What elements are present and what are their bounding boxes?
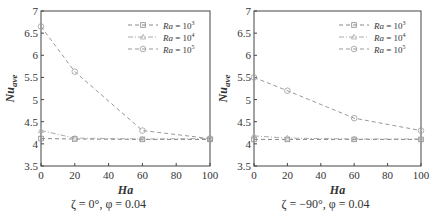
caption-zeta: ζ = 0° (71, 197, 100, 211)
y-tick-label: 5 (33, 94, 39, 106)
series-3 (251, 75, 424, 134)
chart-caption-left: ζ = 0°, φ = 0.04 (0, 197, 217, 212)
series-line (41, 27, 210, 139)
legend-label: Ra = 105 (162, 44, 195, 55)
y-tick-label: 6 (33, 49, 39, 61)
legend-label: Ra = 103 (373, 20, 406, 31)
y-tick-label: 6.5 (237, 27, 251, 39)
y-tick-label: 5.5 (237, 71, 251, 83)
x-axis-label: Ha (329, 183, 345, 197)
chart-panel-right: 3.544.555.566.57020406080100HaNuaveRa = … (217, 0, 434, 218)
y-tick-label: 7 (33, 5, 39, 17)
chart-left: 3.544.555.566.57020406080100HaNuaveRa = … (0, 0, 217, 218)
y-axis-label: Nuave (216, 75, 232, 104)
chart-caption-right: ζ = −90°, φ = 0.04 (217, 197, 434, 212)
y-tick-label: 3.5 (24, 160, 38, 172)
y-tick-label: 6 (246, 49, 252, 61)
caption-zeta: ζ = −90° (281, 197, 322, 211)
legend: Ra = 103Ra = 104Ra = 105 (128, 20, 195, 55)
x-tick-label: 40 (103, 169, 115, 181)
x-tick-label: 80 (382, 169, 394, 181)
y-tick-label: 3.5 (237, 160, 251, 172)
x-tick-label: 0 (251, 169, 257, 181)
caption-phi: , φ = 0.04 (99, 197, 146, 211)
y-tick-label: 4 (33, 138, 39, 150)
y-tick-label: 4.5 (237, 116, 251, 128)
x-tick-label: 60 (349, 169, 361, 181)
x-tick-label: 40 (315, 169, 327, 181)
series-line (254, 136, 421, 139)
legend-label: Ra = 105 (373, 44, 406, 55)
legend-label: Ra = 104 (162, 32, 195, 43)
y-axis-label: Nuave (3, 75, 19, 104)
x-tick-label: 80 (171, 169, 183, 181)
x-axis-label: Ha (117, 183, 133, 197)
y-tick-label: 6.5 (24, 27, 38, 39)
y-tick-label: 4 (246, 138, 252, 150)
caption-phi: , φ = 0.04 (323, 197, 370, 211)
legend: Ra = 103Ra = 104Ra = 105 (339, 20, 406, 55)
chart-right: 3.544.555.566.57020406080100HaNuaveRa = … (217, 0, 434, 218)
y-tick-label: 5.5 (24, 71, 38, 83)
y-tick-label: 5 (246, 94, 252, 106)
series-1 (39, 136, 213, 141)
y-tick-label: 7 (246, 5, 252, 17)
x-tick-label: 0 (38, 169, 44, 181)
x-tick-label: 100 (413, 169, 430, 181)
y-tick-label: 4.5 (24, 116, 38, 128)
legend-label: Ra = 104 (373, 32, 406, 43)
x-tick-label: 20 (69, 169, 81, 181)
x-tick-label: 20 (282, 169, 294, 181)
series-line (41, 131, 210, 139)
x-tick-label: 60 (137, 169, 149, 181)
legend-label: Ra = 103 (162, 20, 195, 31)
series-line (254, 77, 421, 130)
chart-panel-left: 3.544.555.566.57020406080100HaNuaveRa = … (0, 0, 217, 218)
